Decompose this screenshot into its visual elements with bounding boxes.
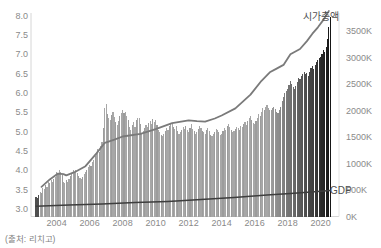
bar: [207, 128, 208, 217]
bar: [235, 129, 236, 217]
bar: [227, 126, 228, 217]
bar: [37, 198, 38, 216]
left-axis-tick-label: 5.0: [15, 127, 28, 137]
gdp-series-label: GDP: [330, 185, 352, 196]
bar: [126, 116, 127, 216]
bar: [63, 182, 64, 217]
bar: [244, 122, 245, 217]
bar: [100, 146, 101, 216]
bar: [246, 125, 247, 217]
bar: [229, 127, 230, 216]
bar: [254, 124, 255, 217]
bar: [161, 135, 162, 217]
bar: [232, 132, 233, 216]
bar: [258, 114, 259, 216]
bar: [228, 124, 229, 217]
bar: [68, 179, 69, 217]
bar: [220, 135, 221, 217]
bar: [317, 60, 318, 216]
bar: [313, 69, 314, 216]
bar: [107, 114, 108, 216]
bar: [321, 54, 322, 216]
bar: [262, 108, 263, 216]
bar: [64, 183, 65, 216]
bar: [96, 153, 97, 217]
left-axis-tick-label: 5.5: [15, 107, 28, 117]
bar: [324, 52, 325, 216]
bar: [238, 128, 239, 217]
left-axis-tick-label: 8.0: [15, 11, 28, 21]
right-axis-tick-label: 3500K: [346, 26, 372, 36]
bar: [125, 112, 126, 217]
bar: [225, 130, 226, 217]
x-axis-tick-label: 2016: [245, 218, 265, 228]
chart-canvas: 8.07.57.06.56.05.55.04.54.03.53.03500K30…: [0, 0, 381, 248]
bar: [178, 134, 179, 217]
bar: [73, 170, 74, 216]
bar: [143, 131, 144, 217]
bar: [44, 189, 45, 217]
bar: [115, 122, 116, 217]
bar: [77, 173, 78, 216]
bar: [141, 134, 142, 217]
bar: [122, 110, 123, 216]
bar: [59, 170, 60, 216]
bar: [191, 124, 192, 217]
bar: [309, 72, 310, 217]
bar: [147, 127, 148, 216]
bar: [312, 66, 313, 217]
bar: [119, 116, 120, 216]
bar: [166, 128, 167, 217]
bar: [247, 121, 248, 217]
bar: [45, 185, 46, 216]
bar: [310, 68, 311, 217]
x-axis-tick-label: 2014: [212, 218, 232, 228]
bar: [88, 167, 89, 216]
bar: [196, 132, 197, 217]
bar: [291, 84, 292, 216]
bar: [240, 126, 241, 217]
bar: [202, 131, 203, 217]
bar: [85, 172, 86, 217]
bar: [264, 110, 265, 216]
bar: [195, 134, 196, 217]
bar: [297, 82, 298, 216]
bar: [298, 78, 299, 217]
bar: [221, 134, 222, 217]
bar: [172, 124, 173, 217]
bar: [320, 57, 321, 216]
bar: [165, 131, 166, 217]
bar: [277, 113, 278, 216]
bar: [255, 121, 256, 217]
bar: [176, 126, 177, 217]
bar: [269, 110, 270, 216]
bar: [327, 39, 328, 217]
bars-group: [35, 17, 330, 217]
bar: [304, 72, 305, 217]
bar: [187, 130, 188, 217]
chart-panel: 8.07.57.06.56.05.55.04.54.03.53.03500K30…: [0, 0, 381, 248]
bar: [288, 85, 289, 216]
bar: [216, 129, 217, 217]
bar: [188, 132, 189, 217]
bar: [305, 74, 306, 216]
bar: [118, 121, 119, 217]
bar: [95, 156, 96, 217]
bar: [41, 193, 42, 217]
bar: [51, 180, 52, 216]
bar: [192, 129, 193, 217]
bar: [184, 129, 185, 217]
bar: [97, 149, 98, 216]
bar: [99, 152, 100, 217]
bar: [236, 127, 237, 216]
bar: [260, 116, 261, 216]
bar: [49, 183, 50, 216]
bar: [56, 172, 57, 216]
x-axis-tick-label: 2012: [179, 218, 199, 228]
bar: [242, 127, 243, 216]
bar: [295, 86, 296, 216]
bar: [42, 188, 43, 217]
bar: [233, 131, 234, 217]
bar: [306, 73, 307, 217]
bar: [86, 170, 87, 217]
